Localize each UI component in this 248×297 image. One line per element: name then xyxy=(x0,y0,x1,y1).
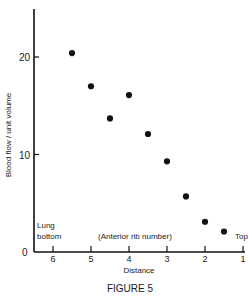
x-tick-label: 2 xyxy=(202,254,207,264)
x-tick-label: 5 xyxy=(88,254,93,264)
y-ticks: 1020 xyxy=(19,52,39,161)
data-point xyxy=(126,92,132,98)
data-point xyxy=(183,193,189,199)
y-zero-label: 0 xyxy=(22,247,28,258)
x-axis-note: (Anterior rib number) xyxy=(98,232,172,241)
x-tick-label: 6 xyxy=(50,254,55,264)
scatter-plot: 1020 654321 0 Blood flow / unit volume L… xyxy=(0,0,248,297)
data-point xyxy=(164,158,170,164)
x-axis-label: Distance xyxy=(123,266,155,275)
y-tick-label: 20 xyxy=(19,52,31,63)
data-points xyxy=(69,50,227,235)
data-point xyxy=(202,219,208,225)
x-tick-label: 1 xyxy=(240,254,245,264)
lung-bottom-label-line1: Lung xyxy=(37,221,55,230)
y-tick-label: 10 xyxy=(19,150,31,161)
figure-caption: FIGURE 5 xyxy=(107,283,154,294)
x-tick-label: 4 xyxy=(126,254,131,264)
x-tick-label: 3 xyxy=(164,254,169,264)
y-axis-label: Blood flow / unit volume xyxy=(4,92,13,177)
top-label: Top xyxy=(235,232,248,241)
lung-bottom-label-line2: bottom xyxy=(37,232,62,241)
data-point xyxy=(221,228,227,234)
data-point xyxy=(88,83,94,89)
data-point xyxy=(69,50,75,56)
x-ticks: 654321 xyxy=(50,246,245,264)
data-point xyxy=(107,115,113,121)
data-point xyxy=(145,131,151,137)
